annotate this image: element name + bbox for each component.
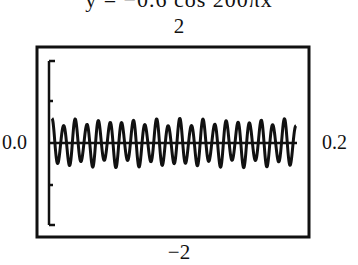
plot-area xyxy=(0,0,358,265)
